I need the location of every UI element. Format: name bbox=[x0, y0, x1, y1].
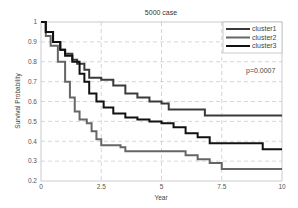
y-tick-label: 0.7 bbox=[28, 78, 37, 85]
x-tick-label: 2.5 bbox=[97, 183, 106, 190]
p-value-annotation: p=0.0007 bbox=[246, 67, 275, 75]
legend-label-cluster3: cluster3 bbox=[252, 42, 277, 49]
x-axis-ticks: 02.557.510 bbox=[39, 183, 286, 190]
y-tick-label: 1 bbox=[33, 18, 37, 25]
chart-title: 5000 case bbox=[145, 9, 177, 16]
x-tick-label: 10 bbox=[278, 183, 286, 190]
x-tick-label: 5 bbox=[160, 183, 164, 190]
y-tick-label: 0.9 bbox=[28, 38, 37, 45]
y-tick-label: 0.6 bbox=[28, 98, 37, 105]
x-tick-label: 0 bbox=[39, 183, 43, 190]
x-axis-label: Year bbox=[154, 194, 168, 201]
x-tick-label: 7.5 bbox=[217, 183, 226, 190]
legend-label-cluster1: cluster1 bbox=[252, 25, 277, 32]
legend: cluster1cluster2cluster3 bbox=[223, 22, 282, 53]
y-axis-ticks: 0.20.30.40.50.60.70.80.91 bbox=[28, 18, 37, 184]
y-tick-label: 0.4 bbox=[28, 138, 37, 145]
y-tick-label: 0.3 bbox=[28, 157, 37, 164]
y-tick-label: 0.8 bbox=[28, 58, 37, 65]
legend-label-cluster2: cluster2 bbox=[252, 34, 277, 41]
y-tick-label: 0.2 bbox=[28, 177, 37, 184]
survival-chart: 5000 case 0.20.30.40.50.60.70.80.91 02.5… bbox=[0, 0, 298, 208]
y-tick-label: 0.5 bbox=[28, 118, 37, 125]
y-axis-label: Survival Probability bbox=[14, 73, 22, 129]
